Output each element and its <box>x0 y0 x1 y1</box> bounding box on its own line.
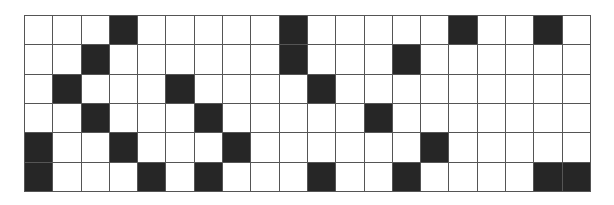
empty-cell <box>478 104 506 133</box>
empty-cell <box>110 45 138 74</box>
empty-cell <box>53 104 81 133</box>
empty-cell <box>336 16 364 45</box>
empty-cell <box>421 75 449 104</box>
empty-cell <box>393 16 421 45</box>
empty-cell <box>82 163 110 192</box>
filled-cell <box>449 16 477 45</box>
empty-cell <box>223 104 251 133</box>
empty-cell <box>421 163 449 192</box>
empty-cell <box>534 75 562 104</box>
empty-cell <box>449 75 477 104</box>
empty-cell <box>280 104 308 133</box>
empty-cell <box>110 104 138 133</box>
empty-cell <box>223 16 251 45</box>
filled-cell <box>308 75 336 104</box>
empty-cell <box>25 75 53 104</box>
empty-cell <box>251 45 279 74</box>
filled-cell <box>53 75 81 104</box>
empty-cell <box>138 75 166 104</box>
empty-cell <box>478 45 506 74</box>
empty-cell <box>280 75 308 104</box>
filled-cell <box>534 163 562 192</box>
empty-cell <box>223 75 251 104</box>
empty-cell <box>421 104 449 133</box>
empty-cell <box>166 16 194 45</box>
empty-cell <box>506 163 534 192</box>
empty-cell <box>478 163 506 192</box>
empty-cell <box>449 133 477 162</box>
empty-cell <box>308 133 336 162</box>
empty-cell <box>195 16 223 45</box>
empty-cell <box>478 75 506 104</box>
empty-cell <box>336 45 364 74</box>
filled-cell <box>138 163 166 192</box>
empty-cell <box>449 104 477 133</box>
filled-cell <box>563 163 591 192</box>
empty-cell <box>138 104 166 133</box>
empty-cell <box>421 45 449 74</box>
empty-cell <box>82 133 110 162</box>
empty-cell <box>365 45 393 74</box>
empty-cell <box>336 75 364 104</box>
empty-cell <box>506 45 534 74</box>
empty-cell <box>25 104 53 133</box>
filled-cell <box>195 163 223 192</box>
empty-cell <box>25 16 53 45</box>
empty-cell <box>393 104 421 133</box>
empty-cell <box>223 163 251 192</box>
empty-cell <box>449 163 477 192</box>
filled-cell <box>110 16 138 45</box>
pixel-grid <box>24 15 591 192</box>
empty-cell <box>138 133 166 162</box>
filled-cell <box>195 104 223 133</box>
filled-cell <box>82 104 110 133</box>
empty-cell <box>308 45 336 74</box>
empty-cell <box>365 75 393 104</box>
filled-cell <box>393 45 421 74</box>
empty-cell <box>421 16 449 45</box>
empty-cell <box>53 45 81 74</box>
empty-cell <box>336 163 364 192</box>
empty-cell <box>251 133 279 162</box>
empty-cell <box>308 16 336 45</box>
filled-cell <box>280 45 308 74</box>
empty-cell <box>166 45 194 74</box>
empty-cell <box>534 45 562 74</box>
empty-cell <box>138 45 166 74</box>
filled-cell <box>280 16 308 45</box>
empty-cell <box>393 133 421 162</box>
empty-cell <box>251 104 279 133</box>
filled-cell <box>393 163 421 192</box>
empty-cell <box>166 163 194 192</box>
filled-cell <box>110 133 138 162</box>
empty-cell <box>506 16 534 45</box>
empty-cell <box>365 133 393 162</box>
empty-cell <box>478 16 506 45</box>
filled-cell <box>365 104 393 133</box>
empty-cell <box>506 104 534 133</box>
empty-cell <box>53 133 81 162</box>
empty-cell <box>308 104 336 133</box>
empty-cell <box>25 45 53 74</box>
empty-cell <box>110 163 138 192</box>
empty-cell <box>82 16 110 45</box>
empty-cell <box>336 104 364 133</box>
filled-cell <box>223 133 251 162</box>
empty-cell <box>251 75 279 104</box>
empty-cell <box>534 104 562 133</box>
filled-cell <box>534 16 562 45</box>
empty-cell <box>563 75 591 104</box>
empty-cell <box>506 75 534 104</box>
empty-cell <box>563 45 591 74</box>
empty-cell <box>138 16 166 45</box>
empty-cell <box>53 163 81 192</box>
empty-cell <box>534 133 562 162</box>
empty-cell <box>223 45 251 74</box>
empty-cell <box>82 75 110 104</box>
empty-cell <box>506 133 534 162</box>
empty-cell <box>478 133 506 162</box>
empty-cell <box>365 16 393 45</box>
empty-cell <box>280 163 308 192</box>
empty-cell <box>195 75 223 104</box>
empty-cell <box>53 16 81 45</box>
